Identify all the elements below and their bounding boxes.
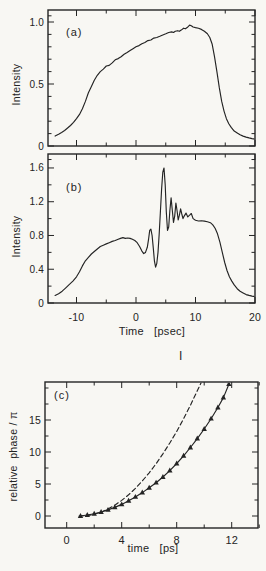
y-tick-label: 1.2	[29, 196, 44, 207]
x-tick-label: 10	[189, 311, 201, 323]
panel-c-x-axis-label: time [ps]	[73, 542, 233, 554]
y-tick-label: 0	[35, 510, 41, 522]
y-tick-label: 0.8	[29, 230, 44, 241]
measured-phase-markers-curve	[81, 384, 229, 516]
theoretical-phase-dashed-curve	[79, 382, 201, 516]
scanned-figure-page: 00.51.0-100102000.40.81.21.604812051015 …	[0, 0, 266, 571]
triangle-marker	[140, 490, 145, 495]
panel-b-x-axis-label: Time [psec]	[72, 325, 232, 337]
y-tick-label: 1.6	[29, 162, 44, 173]
y-tick-label: 0	[38, 298, 44, 309]
x-tick-label: 20	[249, 311, 261, 323]
y-tick-label: 0	[38, 141, 44, 152]
panel-c-series	[78, 381, 232, 518]
y-tick-label: 0.4	[29, 264, 44, 275]
modulated-pulse-intensity-curve	[55, 168, 255, 297]
triangle-marker	[147, 485, 152, 490]
x-tick-label: 0	[64, 534, 70, 546]
panel-b-label: (b)	[66, 181, 82, 193]
figure-svg: 00.51.0-100102000.40.81.21.604812051015	[0, 0, 266, 571]
y-tick-label: 15	[29, 414, 41, 426]
y-tick-label: 5	[35, 478, 41, 490]
panel-a-series	[55, 25, 255, 139]
y-tick-label: 0.5	[29, 79, 44, 90]
panel-a-label: (a)	[66, 26, 82, 38]
x-tick-label: 0	[133, 311, 139, 323]
pulse-intensity-envelope-curve	[55, 25, 255, 139]
panel-c-label: (c)	[54, 389, 70, 401]
panel-b-y-axis-label: Intensity	[10, 177, 23, 297]
triangle-marker	[221, 395, 226, 400]
panel-b-series	[55, 168, 255, 297]
panel-b-frame	[48, 154, 255, 303]
y-tick-label: 10	[29, 446, 41, 458]
panel-c-y-axis-label: relative phase / π	[7, 397, 20, 517]
panel-a-y-axis-label: Intensity	[10, 25, 23, 145]
y-tick-label: 1.0	[29, 17, 44, 28]
stray-scan-mark: I	[179, 349, 182, 363]
x-tick-label: -10	[69, 311, 85, 323]
panel-c-frame	[45, 382, 258, 528]
